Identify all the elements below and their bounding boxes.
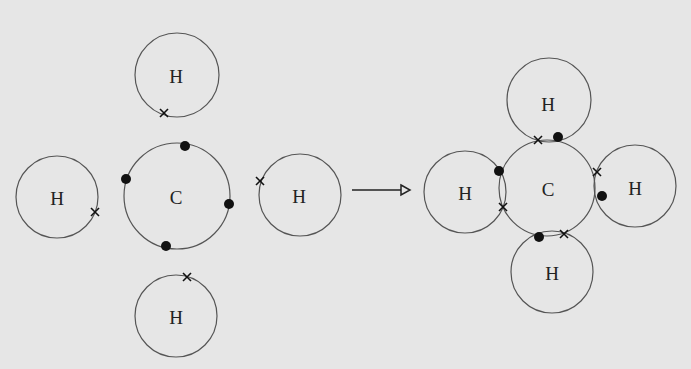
- hydrogen-top-atom: H: [135, 33, 219, 117]
- atom-label: C: [170, 187, 183, 208]
- carbon-atom: C: [121, 141, 234, 251]
- dot-electron-icon: [553, 132, 563, 142]
- atom-label: H: [541, 94, 555, 115]
- dot-electron-icon: [494, 166, 504, 176]
- separate-atoms: H H C H H: [16, 33, 341, 357]
- hydrogen-bottom-atom: H: [135, 273, 217, 357]
- dot-electron-icon: [161, 241, 171, 251]
- cross-electron-icon: [91, 208, 99, 216]
- atom-label: H: [545, 263, 559, 284]
- atom-label: H: [169, 66, 183, 87]
- atom-label: C: [542, 179, 555, 200]
- dot-electron-icon: [534, 232, 544, 242]
- atom-label: H: [50, 188, 64, 209]
- atom-label: H: [458, 183, 472, 204]
- dot-electron-icon: [121, 174, 131, 184]
- dot-electron-icon: [597, 191, 607, 201]
- reaction-arrow-icon: [352, 185, 410, 195]
- hydrogen-left-atom: H: [16, 156, 99, 238]
- dot-electron-icon: [180, 141, 190, 151]
- atom-label: H: [628, 178, 642, 199]
- cross-electron-icon: [499, 203, 507, 211]
- methane-molecule: H H C H H: [424, 58, 676, 313]
- methane-bonding-diagram: H H C H H: [0, 0, 691, 369]
- atom-label: H: [292, 186, 306, 207]
- hydrogen-right-atom: H: [256, 154, 341, 236]
- cross-electron-icon: [160, 109, 168, 117]
- atom-label: H: [169, 307, 183, 328]
- dot-electron-icon: [224, 199, 234, 209]
